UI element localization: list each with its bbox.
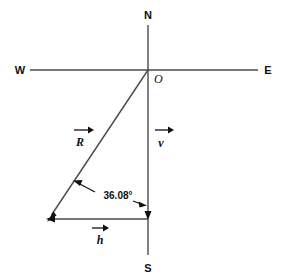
vector-diagram-figure: N S W E O R v	[0, 0, 284, 279]
resultant-vector-label: R	[75, 135, 84, 149]
resultant-vector-line	[52, 70, 149, 215]
vertical-component-label: v	[158, 136, 164, 150]
resultant-vector-label-group: R	[74, 127, 94, 150]
r-label-overline-arrowhead	[88, 127, 94, 134]
origin-label: O	[154, 72, 163, 86]
angle-annotation-group: 36.08°	[73, 180, 147, 208]
compass-label-east: E	[264, 64, 271, 76]
v-label-overline-arrowhead	[168, 127, 174, 134]
angle-leader-arrowhead-right	[139, 202, 148, 208]
vector-diagram-canvas: N S W E O R v	[0, 0, 284, 279]
angle-value-label: 36.08°	[103, 190, 132, 201]
horizontal-component-group	[46, 216, 148, 223]
compass-label-south: S	[144, 262, 151, 274]
compass-label-west: W	[15, 64, 26, 76]
compass-axes-group	[30, 25, 258, 255]
compass-label-north: N	[144, 9, 152, 21]
vertical-component-label-group: v	[155, 127, 174, 151]
horizontal-component-label-group: h	[92, 225, 109, 248]
horizontal-component-label: h	[97, 233, 104, 247]
h-label-overline-arrowhead	[103, 225, 109, 232]
resultant-vector-group	[47, 70, 148, 222]
